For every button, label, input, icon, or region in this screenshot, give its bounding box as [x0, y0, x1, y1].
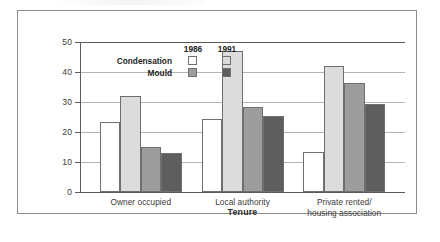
legend-label-mould: Mould [148, 68, 172, 78]
legend-swatch-condensation-1991 [222, 56, 231, 65]
bar-condensation-1991 [120, 96, 141, 192]
y-axis-tick [75, 162, 80, 163]
bar-mould-1991 [161, 153, 182, 192]
bar-mould-1986 [141, 147, 162, 192]
bar-mould-1991 [365, 104, 386, 193]
legend-swatch-condensation-1986 [188, 56, 197, 65]
x-axis-category-label-line: Private rented/ [307, 197, 381, 208]
x-axis-category-label-line: Owner occupied [110, 197, 171, 208]
y-axis-tick-label: 10 [62, 157, 72, 167]
chart-legend: 19861991CondensationMould [88, 44, 238, 78]
bar-mould-1991 [263, 116, 284, 193]
x-axis-category-label-line: Local authority [215, 197, 270, 208]
chart-figure: % of households 01020304050 Owner occupi… [0, 0, 440, 242]
x-axis-line [80, 192, 405, 193]
y-axis-tick [75, 72, 80, 73]
legend-year-1986: 1986 [176, 44, 210, 54]
y-axis-line [80, 42, 81, 192]
bar-mould-1986 [243, 107, 264, 193]
legend-label-condensation: Condensation [117, 56, 172, 66]
bar-condensation-1991 [324, 66, 345, 192]
y-axis-tick [75, 42, 80, 43]
y-axis-tick-label: 30 [62, 97, 72, 107]
y-axis-tick [75, 132, 80, 133]
x-axis-category-label: Local authority [215, 197, 270, 208]
legend-swatch-mould-1991 [222, 68, 231, 77]
axis-top [80, 42, 405, 43]
cropped-caption-artifact [55, 0, 205, 5]
bar-condensation-1986 [100, 122, 121, 193]
legend-swatch-mould-1986 [188, 68, 197, 77]
y-axis-tick [75, 102, 80, 103]
bar-condensation-1986 [202, 119, 223, 193]
legend-year-1991: 1991 [210, 44, 244, 54]
x-axis-category-label: Owner occupied [110, 197, 171, 208]
bar-condensation-1986 [303, 152, 324, 193]
y-axis-tick-label: 20 [62, 127, 72, 137]
y-axis-tick-label: 50 [62, 37, 72, 47]
y-axis-tick-label: 0 [67, 187, 72, 197]
chart-frame: % of households 01020304050 Owner occupi… [17, 10, 417, 214]
y-axis-tick [75, 192, 80, 193]
x-axis-title: Tenure [80, 207, 405, 217]
bar-mould-1986 [344, 83, 365, 193]
y-axis-tick-label: 40 [62, 67, 72, 77]
